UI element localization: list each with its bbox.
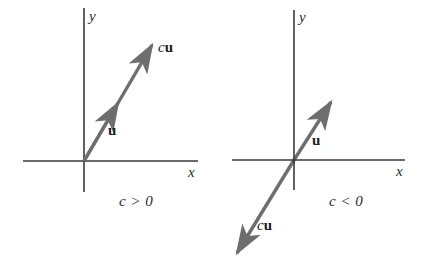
vector-label-u-left-vector: u [108,122,116,138]
x-axis-label-left: x [187,164,195,180]
figure-canvas: y x cu u c > 0 y x [0,0,430,268]
panel-positive-scalar: y x cu u c > 0 [23,8,198,209]
vector-scalar-multiplication-figure: y x cu u c > 0 y x [0,0,430,268]
vector-label-cu-right: cu [257,217,272,233]
vector-label-u-left: u [108,122,116,138]
y-axis-label-left: y [87,8,96,24]
condition-label-negative: c < 0 [329,193,363,209]
vector-label-u-right-vector: u [312,132,320,148]
panel-negative-scalar: y x u cu c < 0 [232,9,405,253]
condition-label-positive: c > 0 [119,193,153,209]
vector-label-u-right: u [312,132,320,148]
y-axis-label-right: y [297,9,306,25]
vector-u-right [294,102,331,160]
vector-label-cu-left: cu [158,39,173,55]
vector-cu-right [237,160,294,253]
vector-label-cu-right-vector: u [264,217,272,233]
x-axis-label-right: x [395,163,403,179]
vector-label-cu-left-vector: u [165,39,173,55]
